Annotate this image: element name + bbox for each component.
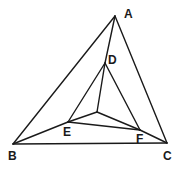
labels-group: A B C D E F — [8, 7, 172, 163]
label-a: A — [124, 7, 133, 21]
edge-oe — [68, 112, 97, 122]
label-e: E — [63, 125, 71, 139]
geometry-diagram: A B C D E F — [0, 0, 184, 175]
label-b: B — [8, 149, 17, 163]
label-f: F — [136, 132, 143, 146]
edges-group — [13, 16, 167, 144]
edge-df — [105, 63, 140, 130]
edge-ac — [115, 16, 167, 143]
label-c: C — [163, 149, 172, 163]
edge-bc — [13, 143, 167, 144]
label-d: D — [108, 53, 117, 67]
